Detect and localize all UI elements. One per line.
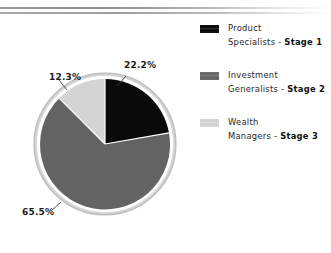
legend-item-product-specialists[interactable]: Product Specialists - Stage 1 <box>200 22 328 52</box>
header-rule-bottom <box>0 12 331 14</box>
pie-label-investment-generalists: 65.5% <box>22 207 54 217</box>
legend-line-1: Investment <box>228 69 328 83</box>
legend-line-1: Product <box>228 22 328 36</box>
legend-line-2: Specialists - Stage 1 <box>228 36 328 50</box>
legend-stage-badge: Stage 3 <box>280 131 318 141</box>
legend-label-investment-generalists: Investment Generalists - Stage 2 <box>228 69 328 96</box>
black-swatch-icon <box>200 25 219 33</box>
legend-line-2-prefix: Generalists - <box>228 84 287 94</box>
chart-legend: Product Specialists - Stage 1 Investment… <box>200 22 328 163</box>
legend-line-2-prefix: Managers - <box>228 131 280 141</box>
legend-item-investment-generalists[interactable]: Investment Generalists - Stage 2 <box>200 69 328 99</box>
header-rule-top <box>0 7 331 9</box>
pie-chart-figure: 22.2% 12.3% 65.5% Product Specialists - … <box>0 0 331 253</box>
legend-line-1: Wealth <box>228 116 328 130</box>
light-swatch-icon <box>200 119 219 127</box>
legend-line-2: Managers - Stage 3 <box>228 130 328 144</box>
legend-stage-badge: Stage 2 <box>287 84 325 94</box>
pie-label-wealth-managers: 12.3% <box>49 72 81 82</box>
legend-line-2: Generalists - Stage 2 <box>228 83 328 97</box>
legend-line-2-prefix: Specialists - <box>228 37 284 47</box>
legend-label-wealth-managers: Wealth Managers - Stage 3 <box>228 116 328 143</box>
pie-label-product-specialists: 22.2% <box>124 60 156 70</box>
legend-item-wealth-managers[interactable]: Wealth Managers - Stage 3 <box>200 116 328 146</box>
legend-stage-badge: Stage 1 <box>284 37 322 47</box>
pie-chart <box>33 72 177 216</box>
legend-label-product-specialists: Product Specialists - Stage 1 <box>228 22 328 49</box>
gray-swatch-icon <box>200 72 219 80</box>
